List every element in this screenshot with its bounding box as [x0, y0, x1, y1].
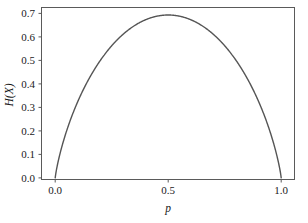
x-tick-label: 0.5	[161, 184, 175, 196]
x-tick-label: 1.0	[274, 184, 288, 196]
y-tick-label: 0.6	[21, 31, 35, 43]
y-tick-label: 0.0	[21, 172, 35, 184]
chart-figure: 0.7 0.6 0.5 0.4 0.3 0.2 0.1 0.0 0.0 0.5 …	[0, 0, 308, 223]
y-tick-label: 0.1	[21, 148, 35, 160]
entropy-line-chart: 0.7 0.6 0.5 0.4 0.3 0.2 0.1 0.0 0.0 0.5 …	[0, 0, 308, 223]
y-tick-label: 0.2	[21, 125, 35, 137]
chart-background	[0, 0, 308, 223]
x-axis-title: p	[164, 202, 171, 215]
y-tick-label: 0.4	[21, 78, 35, 90]
x-tick-label: 0.0	[48, 184, 62, 196]
y-tick-label: 0.5	[21, 54, 35, 66]
y-axis-title: H(X)	[3, 83, 16, 107]
y-tick-label: 0.7	[21, 7, 35, 19]
y-tick-label: 0.3	[21, 101, 35, 113]
